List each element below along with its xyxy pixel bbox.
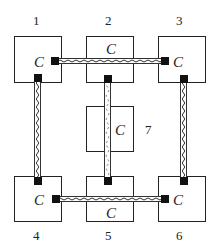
node-number-4: 4 xyxy=(33,229,40,242)
terminal-2-bottom xyxy=(104,75,112,83)
node-label-2: C xyxy=(106,42,116,57)
node-label-1: C xyxy=(34,55,44,70)
terminal-1-right xyxy=(51,57,59,65)
node-number-7: 7 xyxy=(145,123,152,136)
node-label-7: C xyxy=(115,123,125,138)
wave-pattern-icon xyxy=(58,59,162,63)
node-label-3: C xyxy=(173,55,183,70)
node-number-3: 3 xyxy=(176,14,183,27)
terminal-3-left xyxy=(161,57,169,65)
wave-pattern-icon xyxy=(58,197,162,201)
node-label-4: C xyxy=(34,193,44,208)
connector-1-3 xyxy=(58,58,162,64)
terminal-4-top xyxy=(34,177,42,185)
connector-1-4 xyxy=(34,81,41,177)
connector-4-6 xyxy=(58,196,162,202)
terminal-1-bottom xyxy=(34,74,42,82)
node-label-5: C xyxy=(106,206,116,221)
wave-pattern-icon xyxy=(181,81,186,177)
connector-2-5 xyxy=(104,81,111,177)
node-number-1: 1 xyxy=(33,14,40,27)
terminal-6-left xyxy=(161,195,169,203)
node-number-5: 5 xyxy=(105,229,112,242)
node-number-6: 6 xyxy=(176,229,183,242)
terminal-3-bottom xyxy=(180,75,188,83)
node-number-2: 2 xyxy=(105,14,112,27)
terminal-6-top xyxy=(180,177,188,185)
terminal-5-top xyxy=(104,177,112,185)
connector-3-6 xyxy=(180,81,187,177)
terminal-4-right xyxy=(52,195,60,203)
wave-pattern-icon xyxy=(35,81,40,177)
node-label-6: C xyxy=(173,193,183,208)
dotted-pattern-icon xyxy=(105,81,110,177)
